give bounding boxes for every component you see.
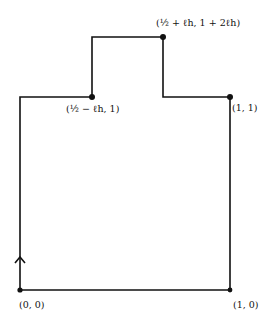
- vertex-dot-notch-left: [89, 94, 95, 100]
- label-notch-left: (½ − ℓh, 1): [66, 103, 119, 114]
- contour-diagram: (0, 0) (1, 0) (1, 1) (½ − ℓh, 1) (½ + ℓh…: [0, 0, 272, 326]
- vertex-dot-bottom-right: [228, 288, 233, 293]
- contour-path: [20, 37, 230, 290]
- vertex-dot-origin: [17, 287, 22, 292]
- label-origin: (0, 0): [19, 299, 45, 310]
- label-notch-top: (½ + ℓh, 1 + 2ℓh): [156, 17, 240, 28]
- vertex-dot-notch-top: [160, 34, 166, 40]
- label-top-right: (1, 1): [232, 102, 258, 113]
- vertex-dot-top-right: [227, 94, 233, 100]
- label-bottom-right: (1, 0): [233, 299, 259, 310]
